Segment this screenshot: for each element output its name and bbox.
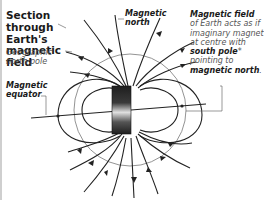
note-period: . [259,66,262,75]
note-text-1: of Earth acts as if imaginary magnet at … [190,19,264,47]
magnetic-field-note: Magnetic field of Earth acts as if imagi… [190,10,264,75]
imaginary-magnet [112,86,131,134]
note-south-pole: south pole [190,47,238,56]
note-asterisk: * [238,47,242,56]
magnetic-north-label: Magnetic north [125,10,175,28]
note-heading: Magnetic field [190,10,255,19]
note-text-2: pointing to [190,56,233,65]
magnetic-equator-label: Magnetic equator [6,82,66,100]
note-magnetic-north: magnetic north [190,66,259,75]
geographic-north-pole-label: Geographic north pole [6,49,76,67]
